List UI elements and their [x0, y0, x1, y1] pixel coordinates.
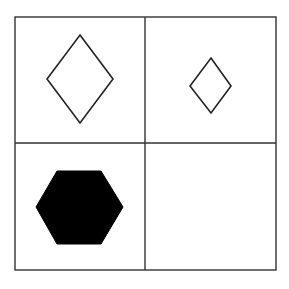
puzzle-grid [0, 0, 289, 289]
